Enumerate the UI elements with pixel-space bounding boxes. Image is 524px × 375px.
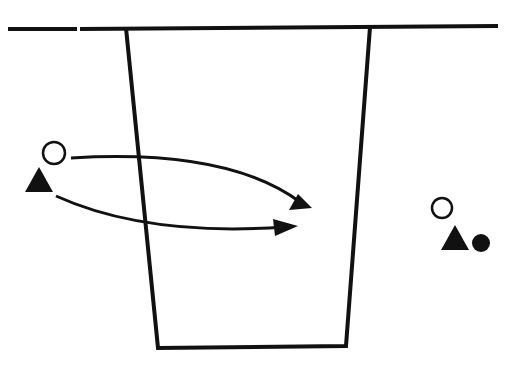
drill-diagram	[0, 0, 524, 375]
arrowhead-lower-icon	[273, 219, 298, 236]
defense-player-left-icon	[25, 167, 53, 192]
cut-arrow-upper	[71, 157, 300, 202]
defense-player-right-icon	[441, 225, 469, 250]
cut-arrow-lower	[56, 196, 285, 229]
key-lane	[126, 27, 370, 348]
offense-player-left-icon	[43, 142, 65, 164]
ball-icon	[472, 234, 490, 252]
baseline	[8, 26, 498, 29]
offense-player-right-icon	[432, 198, 452, 218]
